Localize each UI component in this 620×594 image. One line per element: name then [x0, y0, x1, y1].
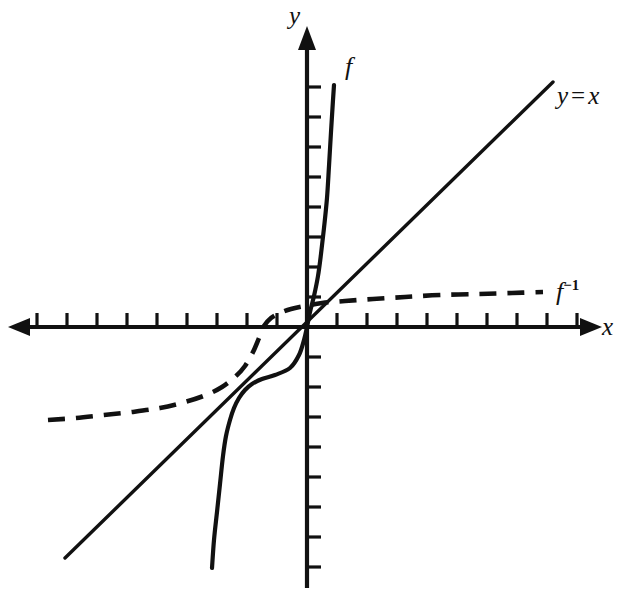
- curve-f-label: f: [345, 54, 352, 80]
- x-axis-right-arrow-icon: [580, 318, 602, 336]
- finv-label-exponent: −1: [563, 277, 579, 293]
- curve-f-inverse: [48, 292, 543, 420]
- y-axis-label: y: [289, 3, 300, 28]
- yx-label-y: y: [557, 82, 568, 109]
- graph-canvas: [0, 0, 620, 594]
- x-axis-left-arrow-icon: [8, 318, 30, 336]
- y-axis-up-arrow-icon: [298, 26, 316, 50]
- graph-figure: y x f y=x f−1: [0, 0, 620, 594]
- curve-f-inverse-label: f−1: [556, 278, 579, 305]
- yx-label-equals: =: [568, 82, 588, 109]
- line-y-equals-x-label: y=x: [557, 83, 599, 108]
- x-axis-label: x: [602, 314, 613, 339]
- yx-label-x: x: [588, 82, 599, 109]
